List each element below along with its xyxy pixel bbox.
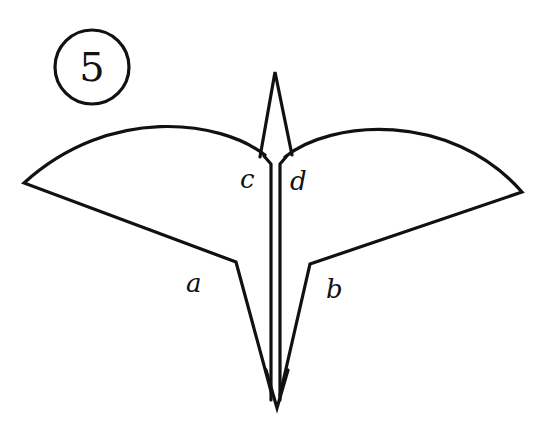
step-number: 5 <box>79 44 104 90</box>
label-d: d <box>290 166 307 196</box>
center-fold-right <box>280 157 286 400</box>
label-c: c <box>240 164 255 194</box>
paper-bird-diagram: 5 c d a b <box>0 0 543 437</box>
left-wing-outline <box>24 126 272 395</box>
step-badge: 5 <box>55 30 129 104</box>
label-a: a <box>186 268 202 298</box>
head-point <box>260 72 292 157</box>
right-wing-outline <box>280 129 522 395</box>
label-b: b <box>326 274 343 304</box>
